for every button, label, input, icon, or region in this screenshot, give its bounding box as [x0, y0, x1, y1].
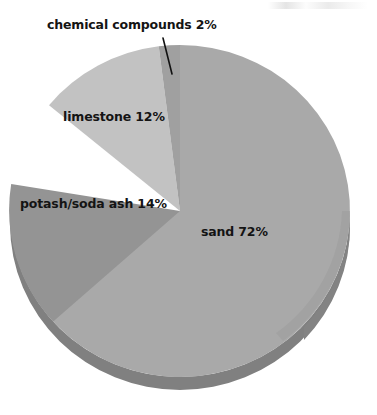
pie-label-potash-soda-ash: potash/soda ash 14% — [20, 198, 167, 211]
pie-label-sand: sand 72% — [201, 226, 268, 239]
pie-slice-limestone[interactable] — [49, 46, 180, 211]
pie-label-chemical-compounds: chemical compounds 2% — [47, 19, 217, 32]
pie-chart-figure: chemical compounds 2% limestone 12% pota… — [0, 0, 377, 415]
pie-label-limestone: limestone 12% — [63, 111, 165, 124]
